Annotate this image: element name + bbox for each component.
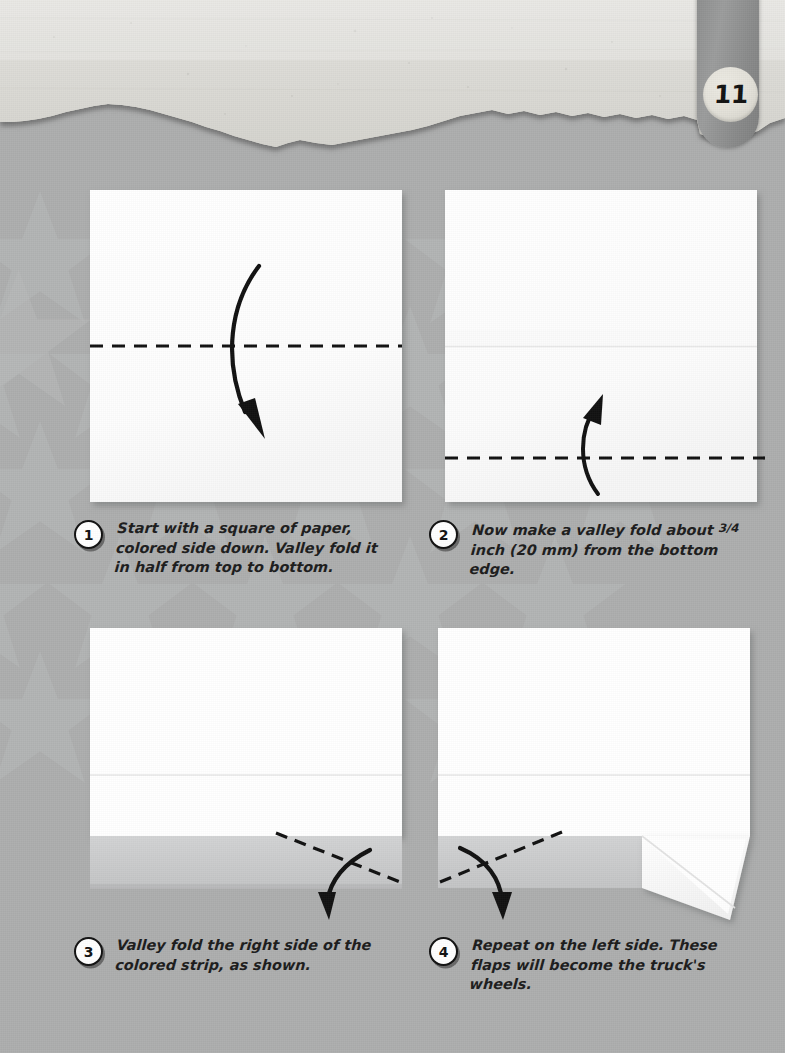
caption-step-2: 2 Now make a valley fold about 3/4 inch …	[429, 519, 759, 580]
step-instruction-1: Start with a square of paper, colored si…	[114, 519, 386, 578]
colored-strip	[90, 836, 402, 888]
caption-step-1: 1 Start with a square of paper, colored …	[74, 519, 394, 578]
step-number-3: 3	[84, 944, 94, 960]
step-instruction-4: Repeat on the left side. These flaps wil…	[469, 936, 741, 995]
fold-arrow-head	[318, 892, 336, 920]
diagram-step-4	[430, 620, 775, 930]
fold-arrow-head	[492, 892, 512, 920]
page-number-label: 11	[713, 80, 748, 109]
diagram-step-1	[80, 182, 416, 514]
step-number-badge-4: 4	[429, 937, 458, 966]
step-number-2: 2	[439, 527, 449, 543]
origami-instruction-page: 11	[0, 0, 785, 1053]
step-number-badge-2: 2	[429, 520, 458, 549]
step-number-badge-1: 1	[74, 520, 103, 549]
diagram-step-3	[80, 620, 416, 920]
step-2-text-before: Now make a valley fold about	[472, 522, 720, 538]
paper-body	[90, 628, 402, 836]
step-instruction-3: Valley fold the right side of the colore…	[115, 936, 386, 975]
caption-step-4: 4 Repeat on the left side. These flaps w…	[429, 936, 759, 995]
torn-paper-header	[0, 0, 785, 175]
paper-body	[438, 628, 750, 836]
caption-step-3: 3 Valley fold the right side of the colo…	[74, 936, 394, 975]
step-2-fraction: 3/4	[718, 521, 740, 535]
step-2-text-after: inch (20 mm) from the bottom edge.	[469, 542, 719, 578]
colored-strip	[438, 836, 642, 888]
page-number-badge: 11	[703, 67, 758, 122]
step-number-badge-3: 3	[74, 937, 103, 966]
step-number-1: 1	[84, 527, 94, 543]
diagram-step-2	[435, 182, 775, 514]
step-number-4: 4	[439, 944, 449, 960]
step-instruction-2: Now make a valley fold about 3/4 inch (2…	[469, 519, 741, 580]
